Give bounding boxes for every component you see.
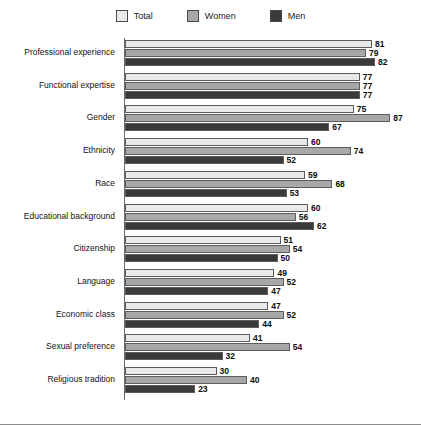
bar-group: Professional experience817982 xyxy=(0,40,421,68)
bar-value-label: 47 xyxy=(271,286,280,296)
bar-women xyxy=(125,213,296,221)
bar-women xyxy=(125,49,366,57)
category-label: Economic class xyxy=(56,310,115,319)
bar-men xyxy=(125,385,195,393)
bar-value-label: 30 xyxy=(220,366,229,376)
bar-value-label: 79 xyxy=(369,48,378,58)
bar-group: Language495247 xyxy=(0,269,421,297)
bar-total xyxy=(125,302,268,310)
bar-women xyxy=(125,376,247,384)
bar-value-label: 68 xyxy=(335,179,344,189)
bar-group: Ethnicity607452 xyxy=(0,138,421,166)
category-label: Sexual preference xyxy=(46,342,115,351)
category-label: Functional expertise xyxy=(39,81,115,90)
category-label: Professional experience xyxy=(24,48,115,57)
bar-women xyxy=(125,147,351,155)
bar-women xyxy=(125,82,360,90)
bar-total xyxy=(125,138,308,146)
bar-value-label: 23 xyxy=(198,384,207,394)
bar-group: Citizenship515450 xyxy=(0,236,421,264)
bar-total xyxy=(125,73,360,81)
bar-group: Educational background605662 xyxy=(0,204,421,232)
bar-women xyxy=(125,311,284,319)
bar-men xyxy=(125,91,360,99)
bar-value-label: 82 xyxy=(378,57,387,67)
legend-item-total: Total xyxy=(116,10,153,22)
legend-label-total: Total xyxy=(134,12,153,21)
bar-men xyxy=(125,352,223,360)
bar-value-label: 49 xyxy=(277,268,286,278)
bar-value-label: 56 xyxy=(299,212,308,222)
bar-group: Race596853 xyxy=(0,171,421,199)
bar-men xyxy=(125,254,278,262)
legend-label-women: Women xyxy=(205,12,236,21)
legend-swatch-men xyxy=(270,10,282,22)
bar-women xyxy=(125,180,332,188)
chart-legend: Total Women Men xyxy=(0,10,421,22)
bar-chart-plot: Professional experience817982Functional … xyxy=(0,36,421,406)
bar-group: Functional expertise777777 xyxy=(0,73,421,101)
category-label: Religious tradition xyxy=(47,375,115,384)
bar-total xyxy=(125,367,217,375)
bar-men xyxy=(125,222,314,230)
bar-value-label: 74 xyxy=(354,146,363,156)
bar-value-label: 54 xyxy=(293,342,302,352)
bar-total xyxy=(125,204,308,212)
bar-men xyxy=(125,320,259,328)
bar-value-label: 44 xyxy=(262,319,271,329)
bar-value-label: 51 xyxy=(284,235,293,245)
bar-men xyxy=(125,156,284,164)
bar-group: Sexual preference415432 xyxy=(0,334,421,362)
category-label: Race xyxy=(95,179,115,188)
bar-value-label: 53 xyxy=(290,188,299,198)
bar-total xyxy=(125,40,372,48)
bar-value-label: 62 xyxy=(317,221,326,231)
legend-swatch-total xyxy=(116,10,128,22)
category-label: Gender xyxy=(87,113,115,122)
category-label: Language xyxy=(77,277,115,286)
bar-men xyxy=(125,58,375,66)
bar-value-label: 60 xyxy=(311,137,320,147)
bar-value-label: 77 xyxy=(363,90,372,100)
bar-women xyxy=(125,343,290,351)
bar-value-label: 67 xyxy=(332,122,341,132)
bar-total xyxy=(125,236,281,244)
bar-value-label: 60 xyxy=(311,203,320,213)
bar-men xyxy=(125,189,287,197)
bar-total xyxy=(125,105,354,113)
bar-men xyxy=(125,287,268,295)
bar-value-label: 40 xyxy=(250,375,259,385)
bar-women xyxy=(125,278,284,286)
bar-value-label: 87 xyxy=(393,113,402,123)
bar-value-label: 47 xyxy=(271,301,280,311)
bar-total xyxy=(125,171,305,179)
legend-label-men: Men xyxy=(288,12,306,21)
legend-item-women: Women xyxy=(187,10,236,22)
bar-group: Gender758767 xyxy=(0,105,421,133)
legend-item-men: Men xyxy=(270,10,306,22)
bar-value-label: 41 xyxy=(253,333,262,343)
bar-total xyxy=(125,269,274,277)
bar-value-label: 52 xyxy=(287,310,296,320)
bar-women xyxy=(125,114,390,122)
bar-men xyxy=(125,123,329,131)
category-label: Ethnicity xyxy=(83,146,115,155)
legend-swatch-women xyxy=(187,10,199,22)
category-label: Citizenship xyxy=(73,244,115,253)
bar-value-label: 52 xyxy=(287,155,296,165)
bar-group: Religious tradition304023 xyxy=(0,367,421,395)
category-label: Educational background xyxy=(24,212,115,221)
bar-value-label: 32 xyxy=(226,351,235,361)
bar-value-label: 50 xyxy=(281,253,290,263)
bar-women xyxy=(125,245,290,253)
bar-value-label: 75 xyxy=(357,104,366,114)
bar-group: Economic class475244 xyxy=(0,302,421,330)
bar-value-label: 54 xyxy=(293,244,302,254)
bar-value-label: 52 xyxy=(287,277,296,287)
bar-total xyxy=(125,334,250,342)
bar-value-label: 59 xyxy=(308,170,317,180)
